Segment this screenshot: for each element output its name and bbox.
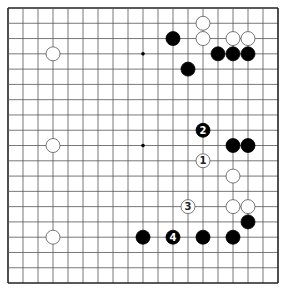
white-stone[interactable] xyxy=(226,169,240,183)
white-stone[interactable] xyxy=(46,47,60,61)
black-stone[interactable] xyxy=(226,139,240,153)
black-stone[interactable] xyxy=(136,230,150,244)
star-point xyxy=(141,52,145,56)
white-stone[interactable] xyxy=(196,16,210,30)
black-stone[interactable] xyxy=(196,230,210,244)
white-stone[interactable] xyxy=(241,32,255,46)
move-number-label: 1 xyxy=(200,155,207,166)
white-stone[interactable]: 3 xyxy=(181,200,195,214)
move-number-label: 4 xyxy=(170,232,177,243)
white-stone[interactable] xyxy=(226,32,240,46)
move-number-label: 3 xyxy=(185,201,192,212)
go-board-canvas[interactable]: 2134 xyxy=(0,0,283,296)
black-stone[interactable]: 4 xyxy=(166,230,180,244)
white-stone[interactable]: 1 xyxy=(196,154,210,168)
move-number-label: 2 xyxy=(200,125,207,136)
white-stone[interactable] xyxy=(196,32,210,46)
white-stone[interactable] xyxy=(226,200,240,214)
white-stone[interactable] xyxy=(46,230,60,244)
black-stone[interactable]: 2 xyxy=(196,123,210,137)
black-stone[interactable] xyxy=(241,215,255,229)
black-stone[interactable] xyxy=(241,139,255,153)
black-stone[interactable] xyxy=(226,47,240,61)
black-stone[interactable] xyxy=(226,230,240,244)
black-stone[interactable] xyxy=(241,47,255,61)
black-stone[interactable] xyxy=(181,62,195,76)
go-board[interactable]: 2134 xyxy=(0,0,283,296)
black-stone[interactable] xyxy=(166,32,180,46)
white-stone[interactable] xyxy=(46,139,60,153)
black-stone[interactable] xyxy=(211,47,225,61)
white-stone[interactable] xyxy=(241,200,255,214)
star-point xyxy=(141,144,145,148)
